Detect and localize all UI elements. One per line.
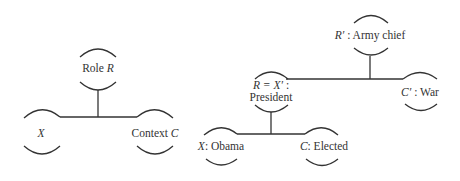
node-top-arc (354, 16, 388, 24)
node-label: R′ : Army chief (334, 29, 406, 42)
node-label-line2: President (250, 91, 294, 103)
node-war: C′ : War (401, 73, 439, 111)
node-x: X (24, 110, 60, 154)
node-bottom-arc (306, 159, 338, 166)
node-bottom-arc (405, 104, 437, 111)
node-label: Role R (82, 62, 114, 74)
node-bottom-arc (80, 82, 116, 90)
node-elected: C: Elected (300, 128, 348, 166)
node-label: C: Elected (300, 140, 348, 152)
node-army-chief: R′ : Army chief (334, 16, 406, 56)
node-top-arc (204, 128, 237, 135)
node-bottom-arc (24, 146, 60, 154)
right-tree: R′ : Army chief R = X′ : President C′ : … (197, 16, 439, 166)
node-context-c: Context C (132, 110, 179, 154)
node-label: X: Obama (197, 140, 244, 152)
node-top-arc (255, 72, 288, 79)
node-role-r: Role R (80, 49, 116, 90)
node-label: C′ : War (401, 86, 439, 98)
node-president: R = X′ : President (250, 72, 294, 112)
node-top-arc (24, 110, 60, 118)
node-top-arc (80, 49, 116, 57)
node-top-arc (305, 128, 338, 135)
node-bottom-arc (354, 48, 388, 55)
node-label: Context C (132, 127, 179, 139)
node-top-arc (137, 110, 173, 118)
node-label-line1: R = X′ : (252, 79, 289, 91)
node-label: X (36, 127, 45, 139)
node-bottom-arc (206, 159, 237, 165)
role-context-diagram: Role R X Context C R′ : Army chief (0, 0, 460, 181)
node-bottom-arc (255, 105, 288, 112)
node-bottom-arc (137, 146, 173, 154)
node-obama: X: Obama (197, 128, 244, 165)
left-tree: Role R X Context C (24, 49, 179, 154)
node-top-arc (403, 73, 437, 80)
